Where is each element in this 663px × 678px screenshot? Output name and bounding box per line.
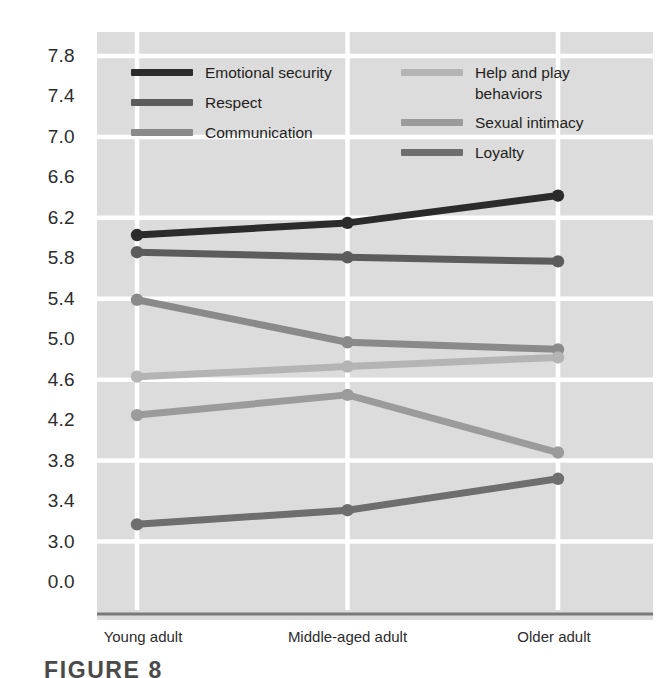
legend-item[interactable]: Sexual intimacy	[401, 112, 631, 134]
data-point	[341, 389, 353, 401]
legend-label: Respect	[205, 92, 262, 113]
data-point	[341, 251, 353, 263]
y-axis-tick: 7.4	[48, 85, 75, 107]
x-axis-tick: Young adult	[104, 628, 183, 645]
x-axis-tick: Older adult	[517, 628, 590, 645]
data-point	[131, 294, 143, 306]
legend-item[interactable]: Loyalty	[401, 142, 631, 164]
y-axis-tick: 7.0	[48, 126, 75, 148]
x-axis-tick-labels: Young adultMiddle-aged adultOlder adult	[97, 628, 653, 654]
y-axis-tick: 6.2	[48, 207, 75, 229]
y-axis-tick: 5.0	[48, 328, 75, 350]
figure-caption: FIGURE 8	[44, 657, 163, 678]
data-point	[341, 336, 353, 348]
x-axis-tick: Middle-aged adult	[288, 628, 407, 645]
legend-label: Loyalty	[475, 142, 524, 163]
legend-swatch	[401, 69, 463, 76]
y-axis-tick: 6.6	[48, 166, 75, 188]
data-point	[552, 255, 564, 267]
data-point	[341, 504, 353, 516]
legend-item[interactable]: Respect	[131, 92, 401, 114]
chart-legend: Emotional securityRespectCommunication H…	[131, 62, 631, 172]
legend-item[interactable]: Help and play behaviors	[401, 62, 631, 104]
data-point	[341, 360, 353, 372]
data-point	[131, 409, 143, 421]
legend-column-left: Emotional securityRespectCommunication	[131, 62, 401, 164]
legend-label: Help and play behaviors	[475, 62, 631, 104]
legend-swatch	[401, 119, 463, 126]
y-axis-tick: 7.8	[48, 45, 75, 67]
y-axis-tick: 3.0	[48, 531, 75, 553]
legend-item[interactable]: Communication	[131, 122, 401, 144]
y-axis-tick: 4.6	[48, 369, 75, 391]
y-axis-tick: 5.4	[48, 288, 75, 310]
y-axis-tick: 4.2	[48, 409, 75, 431]
figure-root: Rating scale 7.87.47.06.66.25.85.45.04.6…	[0, 0, 663, 678]
y-axis-tick-labels: 7.87.47.06.66.25.85.45.04.64.23.83.43.00…	[0, 32, 97, 620]
y-axis-tick: 5.8	[48, 247, 75, 269]
legend-column-right: Help and play behaviorsSexual intimacyLo…	[401, 62, 631, 164]
data-point	[552, 351, 564, 363]
y-axis-tick: 3.8	[48, 450, 75, 472]
legend-label: Emotional security	[205, 62, 332, 83]
y-axis-tick: 0.0	[48, 571, 75, 593]
legend-swatch	[131, 69, 193, 76]
data-point	[552, 189, 564, 201]
legend-label: Sexual intimacy	[475, 112, 584, 133]
data-point	[552, 473, 564, 485]
data-point	[131, 370, 143, 382]
legend-swatch	[131, 99, 193, 106]
legend-swatch	[401, 149, 463, 156]
legend-swatch	[131, 129, 193, 136]
data-point	[341, 217, 353, 229]
data-point	[552, 446, 564, 458]
data-point	[131, 246, 143, 258]
data-point	[131, 229, 143, 241]
legend-label: Communication	[205, 122, 313, 143]
data-point	[131, 518, 143, 530]
legend-item[interactable]: Emotional security	[131, 62, 401, 84]
y-axis-tick: 3.4	[48, 490, 75, 512]
